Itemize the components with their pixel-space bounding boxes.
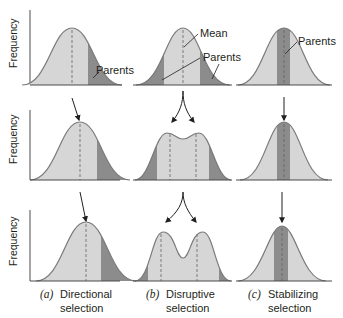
caption-line1-c: Stabilizing — [268, 288, 318, 300]
parents-region-left — [130, 225, 148, 282]
parents-label: Parents — [298, 35, 336, 47]
caption-line1-b: Disruptive — [166, 288, 215, 300]
plot-c2 — [236, 115, 332, 181]
plot-b1: Mean Parents — [130, 20, 241, 86]
parents-region — [97, 115, 137, 181]
parents-region — [88, 20, 128, 86]
caption-line2-b: selection — [166, 302, 209, 314]
plot-b2 — [130, 125, 236, 181]
generation-arrow-right — [183, 192, 196, 222]
plot-a1: Parents Frequency — [7, 10, 134, 86]
parents-region-left — [130, 20, 164, 86]
generation-arrow-right — [183, 91, 194, 122]
mean-label: Mean — [200, 27, 228, 39]
column-disruptive: Mean Parents (b) Di — [130, 20, 241, 314]
generation-arrow-left — [172, 91, 183, 122]
generation-arrow — [80, 192, 86, 221]
caption-letter-c: (c) — [248, 288, 261, 301]
caption-letter-b: (b) — [146, 288, 160, 301]
generation-arrow — [72, 98, 79, 120]
column-stabilizing: Parents (c) Stabilizing selection — [236, 20, 336, 314]
caption-line1-a: Directional — [60, 288, 112, 300]
plot-a2: Frequency — [7, 110, 137, 181]
parents-label: Parents — [203, 51, 241, 63]
plot-c3 — [236, 220, 332, 282]
y-axis-label: Frequency — [7, 114, 19, 164]
parents-label: Parents — [96, 64, 134, 76]
y-axis-label: Frequency — [7, 18, 19, 68]
caption-line2-c: selection — [268, 302, 311, 314]
y-axis-label: Frequency — [7, 216, 19, 266]
selection-diagram: Parents Frequency Frequency Frequency (a… — [0, 0, 343, 318]
plot-c1: Parents — [236, 20, 336, 86]
plot-a3: Frequency — [7, 210, 141, 282]
column-directional: Parents Frequency Frequency Frequency (a… — [7, 10, 141, 314]
caption-line2-a: selection — [60, 302, 103, 314]
caption-letter-a: (a) — [40, 288, 54, 301]
generation-arrow-left — [166, 192, 183, 222]
plot-b3 — [130, 225, 237, 282]
